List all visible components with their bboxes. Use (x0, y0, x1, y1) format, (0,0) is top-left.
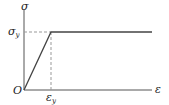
yield-strain-label: εy (46, 92, 56, 105)
stress-strain-curve (24, 32, 152, 90)
yield-stress-label: σy (8, 26, 19, 39)
origin-label: O (13, 85, 22, 96)
stress-strain-diagram (0, 0, 169, 105)
y-axis-label: σ (21, 1, 29, 12)
x-axis-label: ε (155, 84, 161, 95)
